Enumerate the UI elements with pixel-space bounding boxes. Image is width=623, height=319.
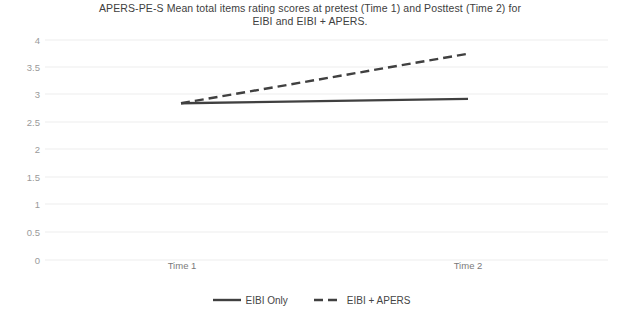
- legend-entry-eibi-plus-apers[interactable]: EIBI + APERS: [314, 295, 411, 306]
- legend-swatch-dashed-icon: [314, 295, 342, 305]
- xtick-label-time-2: Time 2: [428, 261, 508, 271]
- legend-swatch-solid-icon: [213, 295, 241, 305]
- series-line-eibi-only: [181, 99, 468, 103]
- series-line-eibi-plus-apers: [181, 54, 468, 104]
- data-series-group: [181, 54, 468, 104]
- chart-legend: EIBI Only EIBI + APERS: [0, 291, 623, 309]
- line-chart: APERS-PE-S Mean total items rating score…: [0, 0, 623, 319]
- legend-label-eibi-plus-apers: EIBI + APERS: [347, 295, 411, 306]
- legend-entry-eibi-only[interactable]: EIBI Only: [213, 295, 288, 306]
- xtick-label-time-1: Time 1: [142, 261, 222, 271]
- legend-label-eibi-only: EIBI Only: [246, 295, 288, 306]
- plot-area: [0, 0, 623, 290]
- gridlines: [45, 40, 608, 260]
